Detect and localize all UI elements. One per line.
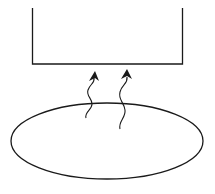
container-shape bbox=[33, 8, 183, 64]
wavy-arrow-right-icon bbox=[120, 69, 132, 129]
diagram-svg bbox=[0, 0, 215, 194]
wavy-arrow-left-icon bbox=[86, 71, 99, 118]
diagram-canvas bbox=[0, 0, 215, 194]
source-ellipse bbox=[11, 103, 203, 179]
